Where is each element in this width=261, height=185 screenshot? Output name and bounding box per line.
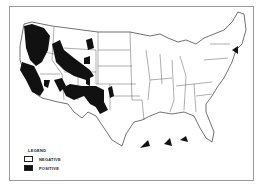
legend-title: LEGEND <box>28 148 61 153</box>
legend-label-positive: POSITIVE <box>39 166 59 171</box>
legend: LEGEND NEGATIVE POSITIVE <box>24 148 61 174</box>
us-outline <box>20 12 246 146</box>
legend-item-positive: POSITIVE <box>24 165 61 171</box>
negative-swatch <box>24 156 33 162</box>
positive-swatch <box>24 165 33 171</box>
legend-item-negative: NEGATIVE <box>24 156 61 162</box>
legend-label-negative: NEGATIVE <box>39 157 61 162</box>
